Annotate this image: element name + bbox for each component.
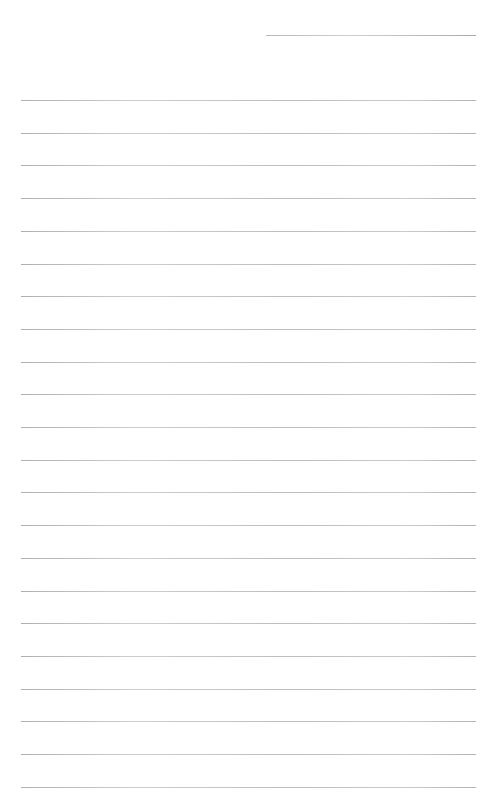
ruled-line <box>21 525 476 526</box>
ruled-line <box>21 427 476 428</box>
ruled-line <box>21 591 476 592</box>
ruled-line <box>21 198 476 199</box>
ruled-line <box>21 754 476 755</box>
header-name-line <box>266 35 476 36</box>
ruled-line <box>21 264 476 265</box>
ruled-line <box>21 656 476 657</box>
ruled-line <box>21 787 476 788</box>
ruled-line <box>21 492 476 493</box>
ruled-line <box>21 133 476 134</box>
ruled-line <box>21 460 476 461</box>
ruled-line <box>21 623 476 624</box>
ruled-line <box>21 329 476 330</box>
ruled-line <box>21 689 476 690</box>
ruled-line <box>21 231 476 232</box>
ruled-line <box>21 721 476 722</box>
lined-page <box>0 0 491 801</box>
ruled-line <box>21 394 476 395</box>
ruled-line <box>21 165 476 166</box>
ruled-line <box>21 362 476 363</box>
ruled-line <box>21 296 476 297</box>
ruled-line <box>21 558 476 559</box>
ruled-line <box>21 100 476 101</box>
